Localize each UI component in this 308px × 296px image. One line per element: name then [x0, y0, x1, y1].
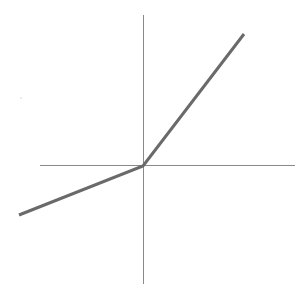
function-line	[19, 34, 244, 215]
chart-container: Piecewise linear function through the or…	[0, 0, 308, 296]
plot-area	[0, 0, 308, 296]
scan-speck	[20, 97, 22, 99]
